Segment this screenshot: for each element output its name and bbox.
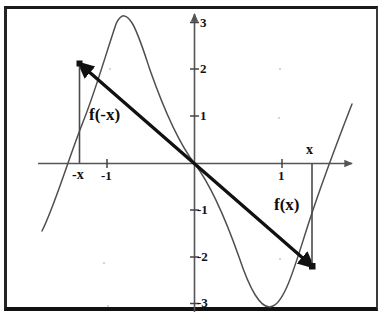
scan-speckle [278, 117, 280, 119]
scan-speckle [279, 258, 281, 260]
scan-speckle [103, 262, 105, 264]
scan-speckle [109, 68, 111, 70]
neg-x-point-label: -x [72, 168, 84, 182]
scan-speckle [107, 305, 109, 307]
y-tick-label-3: 3 [200, 16, 207, 29]
x-tick-label-pos1: 1 [278, 169, 285, 182]
figure-root: 3 2 1 -1 -2 -3 -1 1 -x x f(-x) f(x) [0, 0, 389, 324]
f-neg-x-label: f(-x) [89, 106, 120, 123]
scan-speckle [279, 68, 281, 70]
x-tick-label-neg1: -1 [101, 169, 112, 182]
y-tick-label-neg3: -3 [197, 296, 208, 309]
y-tick-label-neg1: -1 [197, 203, 208, 216]
y-tick-label-2: 2 [200, 62, 207, 75]
f-x-label: f(x) [274, 196, 299, 213]
y-tick-label-1: 1 [200, 109, 207, 122]
pos-x-point-label: x [306, 143, 313, 157]
figure-frame [4, 6, 378, 311]
y-tick-label-neg2: -2 [197, 250, 208, 263]
